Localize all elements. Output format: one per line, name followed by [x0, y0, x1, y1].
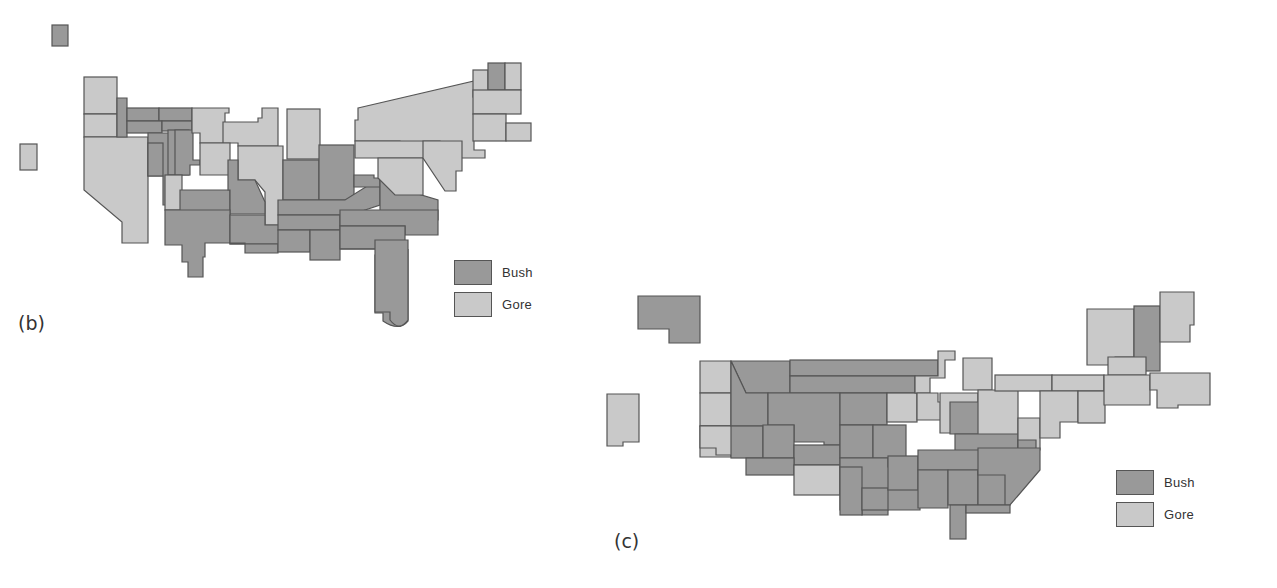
region-ks-c	[840, 425, 873, 458]
region-ct-b	[473, 114, 506, 141]
region-ma-b	[473, 90, 521, 114]
region-ok-c	[873, 425, 906, 458]
region-al-b	[310, 230, 340, 260]
region-tx-b	[165, 210, 230, 277]
region-fl-c	[950, 505, 966, 539]
region-sd-c	[790, 376, 915, 393]
region-me-c	[1160, 292, 1194, 342]
bush-swatch	[454, 260, 492, 285]
region-mo-c	[950, 402, 979, 434]
region-tx2-c	[840, 467, 862, 515]
region-ny-c	[1052, 375, 1104, 391]
region-nd-b	[159, 108, 192, 121]
region-ma-c	[1108, 357, 1146, 375]
region-mn-c	[887, 393, 917, 422]
region-sc-c	[966, 505, 1010, 513]
region-md-c	[1078, 391, 1105, 423]
cartogram-figure	[0, 0, 1277, 588]
panel-label-c: (c)	[614, 530, 639, 552]
legend-label: Bush	[502, 265, 533, 280]
region-washington-b	[84, 77, 117, 114]
region-me-b	[505, 63, 521, 90]
region-ar-b	[230, 243, 278, 253]
region-al-c	[948, 470, 978, 505]
region-wv-b	[354, 175, 380, 187]
region-ms-b	[278, 230, 310, 252]
region-ne-b	[175, 130, 200, 175]
region-hawaii-c	[607, 394, 639, 446]
region-california-b	[84, 137, 148, 243]
region-nj-c	[1040, 391, 1078, 438]
legend-label: Gore	[1164, 507, 1194, 522]
region-ne-c	[840, 393, 887, 425]
region-or-c	[700, 393, 731, 426]
region-nv-c	[731, 426, 763, 458]
region-nh-b	[488, 63, 505, 90]
region-ia-b	[200, 143, 230, 175]
region-oregon-b	[84, 114, 117, 137]
region-ri-b	[506, 123, 531, 141]
region-wi-b	[223, 108, 278, 146]
region-idaho-b	[117, 98, 127, 137]
legend-c: Bush Gore	[1116, 469, 1195, 533]
region-mi-c	[963, 358, 992, 390]
region-ri-c	[1150, 373, 1210, 408]
region-alaska-c	[638, 296, 700, 343]
region-tn-b	[278, 215, 340, 230]
region-montana-b	[127, 108, 159, 121]
region-ct-c	[1104, 375, 1150, 405]
region-mi-b	[287, 109, 320, 159]
region-nm-c	[794, 465, 840, 495]
gore-swatch	[1116, 502, 1154, 527]
region-co-c	[794, 445, 840, 465]
region-nd-c	[790, 360, 938, 376]
legend-item-gore: Gore	[1116, 501, 1195, 527]
legend-item-bush: Bush	[454, 259, 533, 285]
panel-label-b: (b)	[18, 312, 45, 334]
region-alaska-b	[52, 25, 68, 46]
region-ut-b	[148, 143, 163, 176]
region-hawaii-b	[20, 144, 37, 170]
region-pa-c	[995, 375, 1052, 391]
bush-swatch	[1116, 470, 1154, 495]
region-in-b	[283, 160, 319, 200]
legend-item-gore: Gore	[454, 291, 533, 317]
region-az-c	[746, 458, 794, 475]
region-ut-c	[763, 425, 794, 458]
gore-swatch	[454, 292, 492, 317]
region-oh-b	[319, 145, 354, 200]
legend-label: Bush	[1164, 475, 1195, 490]
region-nj-b	[423, 141, 462, 191]
legend-label: Gore	[502, 297, 532, 312]
region-ms-c	[918, 470, 948, 508]
region-wy-b	[127, 121, 162, 133]
region-wa-c	[700, 361, 731, 393]
legend-b: Bush Gore	[454, 259, 533, 323]
legend-item-bush: Bush	[1116, 469, 1195, 495]
region-in-c	[978, 390, 1018, 437]
region-ar-c	[888, 456, 918, 490]
region-la-c	[862, 488, 888, 510]
